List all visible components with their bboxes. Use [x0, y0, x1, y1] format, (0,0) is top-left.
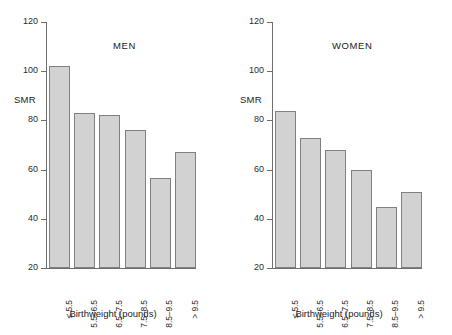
y-tick-mark — [267, 219, 272, 220]
y-tick-mark — [41, 268, 46, 269]
x-axis-line-women — [272, 268, 422, 269]
bar — [325, 150, 346, 268]
bar — [351, 170, 372, 268]
y-tick-mark — [41, 71, 46, 72]
bar-group-women — [273, 22, 421, 268]
bar — [150, 178, 171, 268]
bar — [175, 152, 196, 268]
y-tick-mark — [41, 120, 46, 121]
bar — [74, 113, 95, 268]
chart-panel-men: MEN SMR 20406080100120 ≤ 5.55.5–6.56.5–7… — [0, 0, 226, 335]
y-tick-mark — [267, 71, 272, 72]
bar — [300, 138, 321, 268]
y-tick-mark — [41, 219, 46, 220]
figure: MEN SMR 20406080100120 ≤ 5.55.5–6.56.5–7… — [0, 0, 452, 335]
x-axis-label-women: Birthweight (pounds) — [226, 308, 452, 319]
y-tick-mark — [267, 120, 272, 121]
bar — [125, 130, 146, 268]
y-tick-mark — [41, 22, 46, 23]
bar — [401, 192, 422, 268]
chart-panel-women: WOMEN SMR 20406080100120 ≤ 5.55.5–6.56.5… — [226, 0, 452, 335]
bar-group-men — [47, 22, 195, 268]
y-tick-mark — [267, 268, 272, 269]
x-axis-label-men: Birthweight (pounds) — [0, 308, 226, 319]
y-tick-mark — [41, 170, 46, 171]
bar — [99, 115, 120, 268]
bar — [275, 111, 296, 268]
bar — [376, 207, 397, 269]
bar — [49, 66, 70, 268]
y-axis-label-women: SMR — [240, 94, 262, 105]
x-axis-line-men — [46, 268, 196, 269]
y-tick-mark — [267, 170, 272, 171]
y-axis-label-men: SMR — [14, 94, 36, 105]
y-tick-mark — [267, 22, 272, 23]
